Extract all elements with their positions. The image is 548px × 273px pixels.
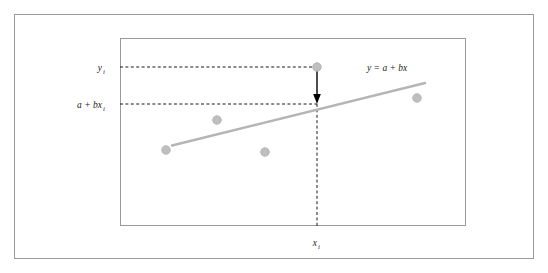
regression-diagram-svg: y i a + bx i y = a + bx x i xyxy=(0,0,548,273)
label-fitted-subscript: i xyxy=(103,105,105,112)
regression-figure: y i a + bx i y = a + bx x i xyxy=(0,0,548,273)
data-point xyxy=(213,116,222,125)
data-point xyxy=(162,146,171,155)
label-fitted-main: a + bx xyxy=(77,100,103,110)
label-yi-main: y xyxy=(97,63,103,73)
label-yi-subscript: i xyxy=(103,68,105,75)
label-xi-main: x xyxy=(312,238,318,248)
label-xi-subscript: i xyxy=(318,243,320,250)
label-regression-equation: y = a + bx xyxy=(366,63,408,73)
data-point-yi xyxy=(313,63,322,72)
data-point xyxy=(261,148,270,157)
data-point xyxy=(413,94,422,103)
